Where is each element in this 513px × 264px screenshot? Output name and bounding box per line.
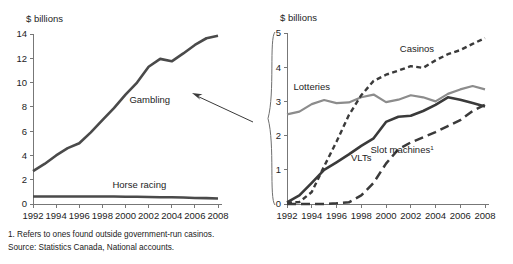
x-tick-label: 1996 (326, 210, 347, 221)
y-tick-label: 2 (276, 130, 281, 141)
x-tick-label: 2000 (115, 210, 136, 221)
x-tick-label: 2002 (138, 210, 159, 221)
y-axis-unit-label: $ billions (280, 12, 317, 23)
y-axis-unit-label: $ billions (26, 13, 63, 24)
x-tick-label: 2004 (161, 210, 182, 221)
x-tick-label: 1998 (92, 210, 113, 221)
y-tick-label: 0 (276, 198, 281, 209)
series-label-slot-machines: Slot machines1 (371, 144, 435, 155)
series-label-text: Casinos (400, 43, 435, 54)
series-line-gambling (33, 36, 218, 171)
x-tick-label: 1996 (69, 210, 90, 221)
series-line-horse-racing (33, 196, 218, 198)
x-tick-label: 1992 (22, 210, 43, 221)
y-tick-label: 5 (276, 27, 281, 38)
x-tick-label: 1998 (351, 210, 372, 221)
y-tick-label: 1 (276, 164, 281, 175)
series-label-text: Slot machines1 (371, 144, 435, 155)
x-tick-label: 2004 (425, 210, 446, 221)
right-chart-panel: $ billions012345199219941996199820002002… (255, 0, 513, 264)
series-label-superscript: 1 (430, 144, 434, 151)
panel-link-brace (268, 32, 275, 205)
series-label-text: VLTs (351, 152, 372, 163)
x-tick-label: 2000 (375, 210, 396, 221)
y-tick-label: 10 (16, 77, 27, 88)
x-tick-label: 1994 (301, 210, 322, 221)
x-tick-label: 2006 (450, 210, 471, 221)
x-tick-label: 2002 (400, 210, 421, 221)
right-chart-svg: $ billions012345199219941996199820002002… (255, 0, 513, 228)
gambling-revenue-figure: $ billions024681012141992199419961998200… (0, 0, 513, 264)
gambling-pointer-arrowhead (192, 93, 203, 100)
x-tick-label: 2008 (207, 210, 228, 221)
x-tick-label: 2006 (184, 210, 205, 221)
series-label-lotteries: Lotteries (294, 81, 331, 92)
series-label-casinos: Casinos (400, 43, 435, 54)
footnote-1: 1. Refers to ones found outside governme… (8, 228, 268, 241)
source-line: Source: Statistics Canada, National acco… (8, 241, 268, 254)
series-label-gambling: Gambling (129, 94, 170, 105)
y-tick-label: 0 (22, 198, 27, 209)
series-label-text: Lotteries (294, 81, 331, 92)
footnotes-block: 1. Refers to ones found outside governme… (8, 228, 268, 254)
y-tick-label: 4 (276, 62, 281, 73)
series-label-horse-racing: Horse racing (112, 179, 166, 190)
series-label-text: Horse racing (112, 179, 166, 190)
y-tick-label: 12 (16, 53, 27, 64)
gambling-pointer-line (197, 96, 253, 122)
left-chart-panel: $ billions024681012141992199419961998200… (0, 0, 258, 264)
x-tick-label: 1992 (276, 210, 297, 221)
left-chart-svg: $ billions024681012141992199419961998200… (0, 0, 258, 228)
y-tick-label: 14 (16, 28, 27, 39)
y-tick-label: 8 (22, 101, 27, 112)
x-tick-label: 1994 (46, 210, 67, 221)
series-label-text: Gambling (129, 94, 170, 105)
y-tick-label: 6 (22, 126, 27, 137)
x-tick-label: 2008 (474, 210, 495, 221)
y-tick-label: 4 (22, 150, 27, 161)
y-tick-label: 2 (22, 174, 27, 185)
series-label-vlts: VLTs (351, 152, 372, 163)
y-tick-label: 3 (276, 96, 281, 107)
